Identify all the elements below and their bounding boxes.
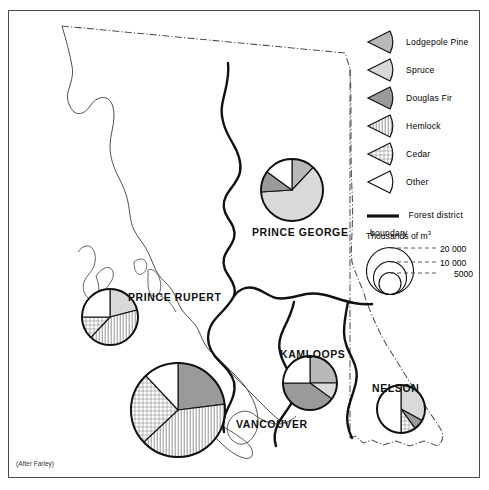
district-label-nelson: NELSON xyxy=(372,382,419,394)
scale-title-superscript: 3 xyxy=(428,230,431,236)
scale-values: 20 000 10 000 5000 xyxy=(440,244,473,280)
legend-item-lodgepole: Lodgepole Pine xyxy=(366,28,484,56)
pie-chart-vancouver[interactable] xyxy=(129,361,227,459)
pie-chart-kamloops[interactable] xyxy=(281,354,339,412)
legend-label-douglasfir: Douglas Fir xyxy=(406,93,452,103)
district-label-vancouver: VANCOUVER xyxy=(236,418,308,430)
legend-label-hemlock: Hemlock xyxy=(406,121,441,131)
legend-swatch-lodgepole xyxy=(366,29,396,55)
scale-value-1: 10 000 xyxy=(440,258,473,269)
scale-title: Thousands of m3 xyxy=(366,230,484,241)
scale-legend: Thousands of m3 20 000 10 000 5000 xyxy=(366,230,484,301)
legend-item-spruce: Spruce xyxy=(366,56,484,84)
legend-swatch-cedar xyxy=(366,141,396,167)
scale-value-0: 20 000 xyxy=(440,244,473,258)
legend-label-spruce: Spruce xyxy=(406,65,434,75)
pie-chart-prince-george[interactable] xyxy=(259,157,325,223)
scale-value-2: 5000 xyxy=(440,269,473,280)
legend-swatch-spruce xyxy=(366,57,396,83)
district-label-kamloops: KAMLOOPS xyxy=(280,348,345,360)
legend-swatch-douglasfir xyxy=(366,85,396,111)
species-legend: Lodgepole PineSpruceDouglas FirHemlockCe… xyxy=(366,28,484,196)
legend-item-douglasfir: Douglas Fir xyxy=(366,84,484,112)
legend-item-other: Other xyxy=(366,168,484,196)
legend-label-cedar: Cedar xyxy=(406,149,430,159)
legend-item-hemlock: Hemlock xyxy=(366,112,484,140)
legend-label-other: Other xyxy=(406,177,429,187)
map-figure: PRINCE GEORGEPRINCE RUPERTVANCOUVERKAMLO… xyxy=(0,0,489,490)
district-label-prince-george: PRINCE GEORGE xyxy=(252,226,348,238)
legend-swatch-other xyxy=(366,169,396,195)
legend-swatch-hemlock xyxy=(366,113,396,139)
legend-item-cedar: Cedar xyxy=(366,140,484,168)
legend-label-lodgepole: Lodgepole Pine xyxy=(406,37,469,47)
scale-title-text: Thousands of m xyxy=(366,231,428,241)
boundary-line-icon xyxy=(366,211,400,221)
district-label-prince-rupert: PRINCE RUPERT xyxy=(128,291,222,303)
figure-credit: (After Farley) xyxy=(16,460,54,467)
